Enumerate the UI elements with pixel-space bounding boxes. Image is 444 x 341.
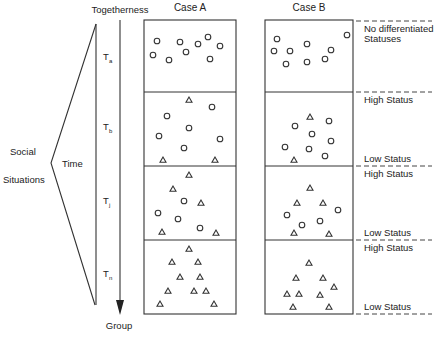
- member-circle-mark: [271, 48, 277, 54]
- member-triangle-mark: [169, 259, 175, 264]
- member-triangle-mark: [197, 274, 203, 279]
- case-a-frame: [144, 20, 236, 314]
- group-label: Group: [106, 320, 132, 331]
- member-circle-mark: [326, 118, 332, 124]
- time-point-j: T j: [103, 195, 110, 208]
- high-status-label: High Status: [364, 242, 413, 253]
- member-circle-mark: [175, 216, 181, 222]
- member-circle-mark: [344, 32, 350, 38]
- member-circle-mark: [287, 48, 293, 54]
- case-a-title: Case A: [174, 2, 207, 13]
- member-circle-mark: [306, 146, 312, 152]
- member-circle-mark: [195, 41, 201, 47]
- member-circle-mark: [197, 225, 203, 231]
- member-circle-mark: [217, 136, 223, 142]
- member-circle-mark: [299, 222, 305, 228]
- high-status-label: High Status: [364, 168, 413, 179]
- member-triangle-mark: [291, 157, 297, 162]
- member-triangle-mark: [177, 274, 183, 279]
- low-status-label: Low Status: [364, 153, 411, 164]
- member-triangle-mark: [186, 172, 192, 177]
- member-circle-mark: [183, 49, 189, 55]
- member-circle-mark: [322, 153, 328, 159]
- member-triangle-mark: [296, 291, 302, 296]
- member-circle-mark: [205, 34, 211, 40]
- member-circle-mark: [282, 144, 288, 150]
- member-triangle-mark: [157, 301, 163, 306]
- member-circle-mark: [335, 207, 341, 213]
- member-circle-mark: [164, 113, 170, 119]
- member-circle-mark: [284, 212, 290, 218]
- member-triangle-mark: [165, 288, 171, 293]
- member-circle-mark: [317, 218, 323, 224]
- member-circle-mark: [166, 57, 172, 63]
- member-triangle-mark: [186, 97, 192, 102]
- member-circle-mark: [283, 61, 289, 67]
- member-circle-mark: [177, 39, 183, 45]
- time-arrow-head-icon: [116, 300, 124, 315]
- member-triangle-mark: [284, 291, 290, 296]
- member-circle-mark: [156, 133, 162, 139]
- member-triangle-mark: [203, 288, 209, 293]
- time-point-a: T a: [103, 51, 113, 64]
- time-point-n: T n: [103, 268, 112, 281]
- member-triangle-mark: [212, 157, 218, 162]
- member-triangle-mark: [294, 200, 300, 205]
- member-triangle-mark: [191, 288, 197, 293]
- member-circle-mark: [328, 47, 334, 53]
- member-triangle-mark: [159, 229, 165, 234]
- member-circle-mark: [207, 56, 213, 62]
- high-status-label: High Status: [364, 94, 413, 105]
- member-triangle-mark: [320, 200, 326, 205]
- social-situations-diagram: Togetherness Group Social Situations Tim…: [0, 0, 444, 341]
- time-label: Time: [62, 158, 83, 169]
- member-circle-mark: [209, 104, 215, 110]
- time-point-b: T b: [103, 121, 113, 134]
- member-circle-mark: [274, 36, 280, 42]
- time-point-sub: b: [109, 128, 113, 134]
- statuses-label: Statuses: [364, 33, 401, 44]
- member-triangle-mark: [317, 292, 323, 297]
- member-circle-mark: [150, 52, 156, 58]
- low-status-label: Low Status: [364, 227, 411, 238]
- member-triangle-mark: [290, 304, 296, 309]
- member-triangle-mark: [306, 260, 312, 265]
- case-a-box: [144, 20, 236, 314]
- member-circle-mark: [322, 56, 328, 62]
- member-marks: [150, 32, 350, 309]
- member-triangle-mark: [213, 230, 219, 235]
- member-triangle-mark: [320, 275, 326, 280]
- low-status-label: Low Status: [364, 301, 411, 312]
- member-triangle-mark: [186, 246, 192, 251]
- member-triangle-mark: [291, 230, 297, 235]
- member-triangle-mark: [307, 185, 313, 190]
- case-b-title: Case B: [293, 2, 326, 13]
- member-triangle-mark: [293, 275, 299, 280]
- member-circle-mark: [181, 198, 187, 204]
- member-circle-mark: [181, 145, 187, 151]
- member-triangle-mark: [331, 284, 337, 289]
- member-circle-mark: [155, 210, 161, 216]
- member-triangle-mark: [170, 186, 176, 191]
- member-triangle-mark: [326, 231, 332, 236]
- social-label: Social: [10, 146, 36, 157]
- member-circle-mark: [186, 125, 192, 131]
- member-circle-mark: [304, 59, 310, 65]
- time-point-sub: j: [108, 202, 110, 208]
- member-triangle-mark: [211, 301, 217, 306]
- togetherness-label: Togetherness: [91, 4, 148, 15]
- situations-label: Situations: [3, 174, 45, 185]
- member-circle-mark: [304, 41, 310, 47]
- member-triangle-mark: [198, 200, 204, 205]
- time-point-sub: n: [109, 275, 112, 281]
- time-point-sub: a: [109, 58, 113, 64]
- member-circle-mark: [217, 43, 223, 49]
- member-triangle-mark: [160, 157, 166, 162]
- member-circle-mark: [292, 123, 298, 129]
- member-triangle-mark: [326, 304, 332, 309]
- member-triangle-mark: [195, 259, 201, 264]
- member-circle-mark: [309, 131, 315, 137]
- member-circle-mark: [154, 38, 160, 44]
- member-triangle-mark: [307, 114, 313, 119]
- member-circle-mark: [328, 138, 334, 144]
